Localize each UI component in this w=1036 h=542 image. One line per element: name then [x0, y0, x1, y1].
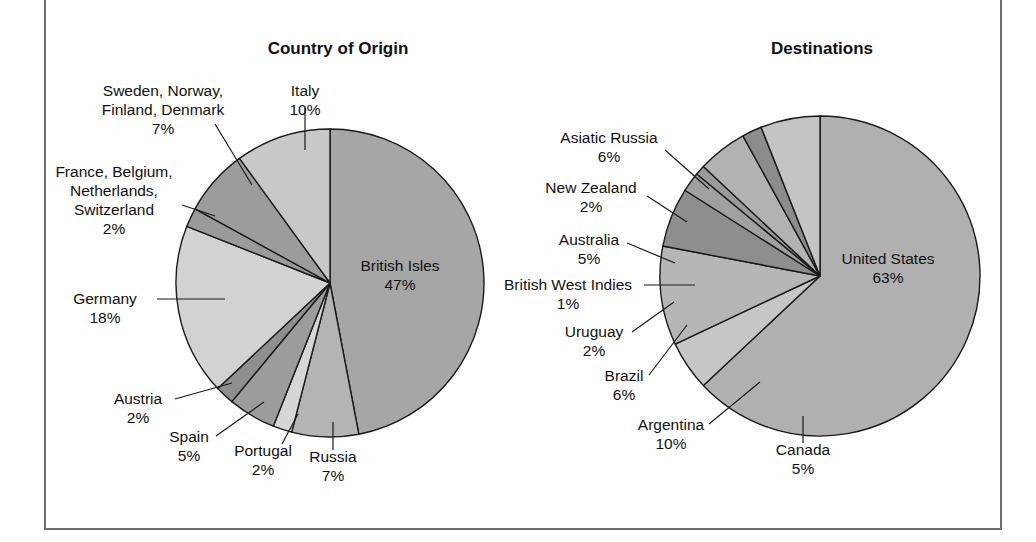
slice-label-line: 10% [655, 435, 686, 452]
slice-label-line: Portugal [234, 442, 292, 459]
slice-label-line: Italy [291, 82, 320, 99]
slice-label-line: 2% [580, 198, 603, 215]
pie-country-of-origin-slices [176, 129, 484, 437]
chart-title-country-of-origin: Country of Origin [268, 39, 409, 58]
slice-label-spain: Spain5% [169, 428, 209, 464]
slice-label-line: Austria [114, 390, 163, 407]
slice-label-british-west-indies: British West Indies1% [504, 276, 632, 312]
slice-label-line: 6% [598, 148, 621, 165]
slice-label-austria: Austria2% [114, 390, 163, 426]
slice-label-line: 6% [613, 386, 636, 403]
slice-label-new-zealand: New Zealand2% [545, 179, 636, 215]
pie-destinations-slices [660, 116, 980, 436]
slice-label-line: 1% [557, 295, 580, 312]
slice-label-russia: Russia7% [309, 448, 357, 484]
figure-page: Sweden, Norway,Finland, Denmark7%Italy10… [0, 0, 1036, 542]
slice-label-line: Switzerland [74, 201, 154, 218]
slice-label-sweden-norway-finland-denmark: Sweden, Norway,Finland, Denmark7% [102, 82, 225, 137]
slice-label-australia: Australia5% [559, 231, 620, 267]
slice-label-line: Spain [169, 428, 209, 445]
slice-label-line: 18% [89, 309, 120, 326]
slice-label-line: 7% [322, 467, 345, 484]
slice-label-line: Netherlands, [70, 182, 158, 199]
slice-label-line: Brazil [605, 367, 644, 384]
slice-label-line: Australia [559, 231, 620, 248]
slice-label-line: 10% [289, 101, 320, 118]
chart-title-destinations: Destinations [771, 39, 873, 58]
slice-label-line: Russia [309, 448, 357, 465]
pie-charts-svg: Sweden, Norway,Finland, Denmark7%Italy10… [0, 0, 1036, 542]
slice-label-line: 47% [384, 276, 415, 293]
slice-label-line: Finland, Denmark [102, 101, 225, 118]
slice-label-line: 63% [872, 269, 903, 286]
slice-label-line: 5% [578, 250, 601, 267]
slice-label-germany: Germany18% [73, 290, 137, 326]
slice-label-line: 5% [792, 460, 815, 477]
slice-label-portugal: Portugal2% [234, 442, 292, 478]
slice-label-line: 2% [583, 342, 606, 359]
slice-label-line: Sweden, Norway, [103, 82, 223, 99]
slice-label-brazil: Brazil6% [605, 367, 644, 403]
slice-label-argentina: Argentina10% [638, 416, 705, 452]
slice-label-line: 2% [252, 461, 275, 478]
slice-label-asiatic-russia: Asiatic Russia6% [560, 129, 658, 165]
slice-label-line: British Isles [360, 257, 439, 274]
slice-label-line: Canada [776, 441, 831, 458]
slice-label-line: Asiatic Russia [560, 129, 658, 146]
slice-label-line: 5% [178, 447, 201, 464]
slice-label-line: 7% [152, 120, 175, 137]
slice-label-line: Germany [73, 290, 137, 307]
slice-label-italy: Italy10% [289, 82, 320, 118]
slice-label-line: British West Indies [504, 276, 632, 293]
slice-label-line: United States [841, 250, 934, 267]
slice-label-canada: Canada5% [776, 441, 831, 477]
slice-label-line: Uruguay [565, 323, 624, 340]
slice-label-line: France, Belgium, [55, 163, 172, 180]
slice-label-france-belgium-netherlands-switzerland: France, Belgium,Netherlands,Switzerland2… [55, 163, 172, 237]
slice-label-line: New Zealand [545, 179, 636, 196]
slice-label-line: 2% [127, 409, 150, 426]
slice-label-line: 2% [103, 220, 126, 237]
slice-label-line: Argentina [638, 416, 705, 433]
slice-label-uruguay: Uruguay2% [565, 323, 624, 359]
